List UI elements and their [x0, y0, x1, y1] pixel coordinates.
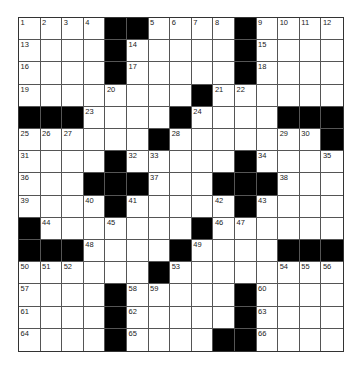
- grid-cell[interactable]: [170, 40, 192, 62]
- grid-cell[interactable]: 33: [149, 151, 171, 173]
- grid-cell[interactable]: [213, 240, 235, 262]
- grid-cell[interactable]: [149, 307, 171, 329]
- grid-cell[interactable]: [321, 218, 343, 240]
- grid-cell[interactable]: [84, 262, 106, 284]
- grid-cell[interactable]: [127, 85, 149, 107]
- grid-cell[interactable]: [149, 218, 171, 240]
- grid-cell[interactable]: [62, 307, 84, 329]
- grid-cell[interactable]: [213, 129, 235, 151]
- grid-cell[interactable]: 22: [235, 85, 257, 107]
- grid-cell[interactable]: [300, 62, 322, 84]
- grid-cell[interactable]: [257, 85, 279, 107]
- grid-cell[interactable]: [149, 196, 171, 218]
- grid-cell[interactable]: [105, 129, 127, 151]
- grid-cell[interactable]: [300, 40, 322, 62]
- grid-cell[interactable]: [300, 307, 322, 329]
- grid-cell[interactable]: 19: [19, 85, 41, 107]
- grid-cell[interactable]: 32: [127, 151, 149, 173]
- grid-cell[interactable]: 21: [213, 85, 235, 107]
- grid-cell[interactable]: [278, 85, 300, 107]
- grid-cell[interactable]: [300, 284, 322, 306]
- grid-cell[interactable]: [149, 40, 171, 62]
- grid-cell[interactable]: [149, 85, 171, 107]
- grid-cell[interactable]: 63: [257, 307, 279, 329]
- grid-cell[interactable]: [127, 129, 149, 151]
- grid-cell[interactable]: 47: [235, 218, 257, 240]
- grid-cell[interactable]: [105, 240, 127, 262]
- grid-cell[interactable]: [278, 196, 300, 218]
- grid-cell[interactable]: 58: [127, 284, 149, 306]
- grid-cell[interactable]: 44: [41, 218, 63, 240]
- grid-cell[interactable]: [321, 40, 343, 62]
- grid-cell[interactable]: [149, 240, 171, 262]
- grid-cell[interactable]: 60: [257, 284, 279, 306]
- grid-cell[interactable]: [170, 151, 192, 173]
- grid-cell[interactable]: 11: [300, 18, 322, 40]
- grid-cell[interactable]: 65: [127, 329, 149, 351]
- grid-cell[interactable]: [41, 85, 63, 107]
- grid-cell[interactable]: 35: [321, 151, 343, 173]
- grid-cell[interactable]: [300, 173, 322, 195]
- grid-cell[interactable]: 38: [278, 173, 300, 195]
- grid-cell[interactable]: [192, 196, 214, 218]
- grid-cell[interactable]: [84, 307, 106, 329]
- grid-cell[interactable]: 12: [321, 18, 343, 40]
- grid-cell[interactable]: [278, 307, 300, 329]
- grid-cell[interactable]: [192, 129, 214, 151]
- grid-cell[interactable]: [62, 218, 84, 240]
- grid-cell[interactable]: [278, 151, 300, 173]
- grid-cell[interactable]: [300, 196, 322, 218]
- grid-cell[interactable]: [41, 173, 63, 195]
- grid-cell[interactable]: [41, 151, 63, 173]
- grid-cell[interactable]: [257, 129, 279, 151]
- grid-cell[interactable]: 42: [213, 196, 235, 218]
- grid-cell[interactable]: [300, 85, 322, 107]
- grid-cell[interactable]: 62: [127, 307, 149, 329]
- grid-cell[interactable]: [105, 107, 127, 129]
- grid-cell[interactable]: [84, 40, 106, 62]
- grid-cell[interactable]: [321, 196, 343, 218]
- grid-cell[interactable]: 52: [62, 262, 84, 284]
- grid-cell[interactable]: [321, 173, 343, 195]
- grid-cell[interactable]: 1: [19, 18, 41, 40]
- grid-cell[interactable]: 34: [257, 151, 279, 173]
- grid-cell[interactable]: [84, 218, 106, 240]
- grid-cell[interactable]: [300, 329, 322, 351]
- grid-cell[interactable]: [235, 240, 257, 262]
- grid-cell[interactable]: [213, 307, 235, 329]
- grid-cell[interactable]: 56: [321, 262, 343, 284]
- grid-cell[interactable]: [170, 218, 192, 240]
- grid-cell[interactable]: 30: [300, 129, 322, 151]
- grid-cell[interactable]: [192, 307, 214, 329]
- grid-cell[interactable]: [62, 62, 84, 84]
- grid-cell[interactable]: 48: [84, 240, 106, 262]
- grid-cell[interactable]: 29: [278, 129, 300, 151]
- grid-cell[interactable]: [192, 40, 214, 62]
- grid-cell[interactable]: 5: [149, 18, 171, 40]
- grid-cell[interactable]: [62, 284, 84, 306]
- grid-cell[interactable]: [62, 40, 84, 62]
- grid-cell[interactable]: [192, 262, 214, 284]
- grid-cell[interactable]: 25: [19, 129, 41, 151]
- grid-cell[interactable]: [41, 40, 63, 62]
- grid-cell[interactable]: 45: [105, 218, 127, 240]
- grid-cell[interactable]: [62, 196, 84, 218]
- grid-cell[interactable]: [84, 329, 106, 351]
- grid-cell[interactable]: [84, 151, 106, 173]
- grid-cell[interactable]: [321, 307, 343, 329]
- grid-cell[interactable]: [170, 329, 192, 351]
- grid-cell[interactable]: [321, 284, 343, 306]
- grid-cell[interactable]: [278, 62, 300, 84]
- grid-cell[interactable]: 17: [127, 62, 149, 84]
- grid-cell[interactable]: 39: [19, 196, 41, 218]
- grid-cell[interactable]: [62, 151, 84, 173]
- grid-cell[interactable]: [62, 173, 84, 195]
- grid-cell[interactable]: [192, 284, 214, 306]
- grid-cell[interactable]: 51: [41, 262, 63, 284]
- grid-cell[interactable]: [321, 62, 343, 84]
- grid-cell[interactable]: [213, 284, 235, 306]
- grid-cell[interactable]: [213, 151, 235, 173]
- grid-cell[interactable]: [257, 107, 279, 129]
- grid-cell[interactable]: [62, 85, 84, 107]
- grid-cell[interactable]: 23: [84, 107, 106, 129]
